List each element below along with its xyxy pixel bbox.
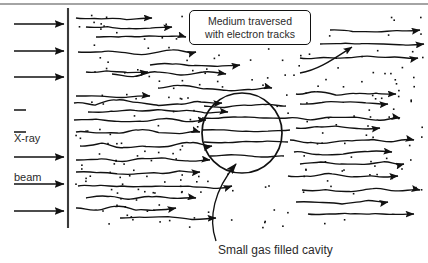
medium-dot xyxy=(99,153,101,155)
medium-dot xyxy=(329,35,331,37)
medium-dot xyxy=(116,32,118,34)
electron-track xyxy=(330,30,420,32)
medium-dot xyxy=(165,24,167,26)
medium-dot xyxy=(85,181,87,183)
medium-dot xyxy=(330,186,332,188)
medium-dot xyxy=(189,226,191,228)
cavity-caption-label: Small gas filled cavity xyxy=(218,243,333,257)
medium-dot xyxy=(100,28,102,30)
medium-dot xyxy=(114,163,116,165)
electron-track-in-cavity xyxy=(202,130,290,132)
medium-dot xyxy=(159,221,161,223)
electron-track xyxy=(86,71,148,73)
medium-dot xyxy=(146,176,148,178)
medium-dot xyxy=(366,134,368,136)
medium-dot xyxy=(198,176,200,178)
medium-dot xyxy=(377,50,379,52)
medium-dot xyxy=(134,115,136,117)
medium-dot xyxy=(123,163,125,165)
medium-dot xyxy=(396,83,398,85)
medium-dot xyxy=(181,16,183,18)
medium-dot xyxy=(401,168,403,170)
medium-dot xyxy=(324,223,326,225)
electron-track xyxy=(300,56,418,59)
medium-dot xyxy=(75,183,77,185)
medium-dot xyxy=(343,86,345,88)
electron-track xyxy=(150,63,240,66)
medium-dot xyxy=(181,192,183,194)
medium-dot xyxy=(412,51,414,53)
diagram-canvas: Medium traversed with electron tracks X-… xyxy=(0,0,428,263)
medium-dot xyxy=(196,181,198,183)
medium-dot xyxy=(391,17,393,19)
electron-track xyxy=(288,117,400,120)
medium-dot xyxy=(204,73,206,75)
medium-dot xyxy=(206,68,208,70)
medium-dot xyxy=(122,183,124,185)
medium-dot xyxy=(398,96,400,98)
medium-dot xyxy=(420,33,422,35)
medium-dot xyxy=(151,160,153,162)
medium-dot xyxy=(336,124,338,126)
medium-dot xyxy=(267,77,269,79)
electron-track xyxy=(76,206,176,210)
electron-track xyxy=(76,130,200,134)
medium-dot xyxy=(309,53,311,55)
medium-dot xyxy=(168,47,170,49)
medium-dot xyxy=(85,178,87,180)
medium-dot xyxy=(192,70,194,72)
medium-dot xyxy=(159,204,161,206)
medium-dot xyxy=(108,223,110,225)
medium-dot xyxy=(119,177,121,179)
medium-dot xyxy=(421,127,423,129)
medium-dot xyxy=(388,34,390,36)
medium-dot xyxy=(144,191,146,193)
medium-dot xyxy=(81,168,83,170)
medium-dot xyxy=(93,22,95,24)
medium-dot xyxy=(287,112,289,114)
medium-dot xyxy=(100,23,102,25)
medium-dot xyxy=(127,215,129,217)
medium-dot xyxy=(420,17,422,19)
medium-dot xyxy=(117,192,119,194)
medium-dot xyxy=(262,227,264,229)
xray-beam-label: X-ray beam xyxy=(14,106,42,210)
medium-dot xyxy=(370,116,372,118)
medium-dot xyxy=(344,143,346,145)
medium-dot xyxy=(199,84,201,86)
medium-dot xyxy=(106,68,108,70)
medium-dot xyxy=(172,153,174,155)
medium-dot xyxy=(148,47,150,49)
medium-dot xyxy=(410,99,412,101)
medium-dot xyxy=(317,85,319,87)
medium-dot xyxy=(197,126,199,128)
medium-dot xyxy=(208,211,210,213)
electron-track xyxy=(294,151,392,155)
electron-track xyxy=(296,92,396,96)
medium-dot xyxy=(111,189,113,191)
electron-track xyxy=(76,96,150,98)
medium-dot xyxy=(367,125,369,127)
medium-dot xyxy=(121,143,123,145)
medium-dot xyxy=(421,136,423,138)
medium-dot xyxy=(194,217,196,219)
medium-dot xyxy=(100,57,102,59)
medium-dot xyxy=(137,155,139,157)
medium-dot xyxy=(274,209,276,211)
medium-dot xyxy=(99,129,101,131)
medium-dot xyxy=(182,145,184,147)
electron-track xyxy=(300,162,404,165)
medium-dot xyxy=(94,44,96,46)
electron-track xyxy=(300,102,388,105)
medium-dot xyxy=(169,220,171,222)
medium-dot xyxy=(173,88,175,90)
medium-dot xyxy=(386,158,388,160)
medium-dot xyxy=(182,80,184,82)
medium-dot xyxy=(144,38,146,40)
electron-track xyxy=(86,27,172,29)
electron-track xyxy=(74,118,206,121)
medium-dot xyxy=(149,76,151,78)
medium-dot xyxy=(144,151,146,153)
medium-dot xyxy=(181,174,183,176)
medium-dot xyxy=(107,61,109,63)
